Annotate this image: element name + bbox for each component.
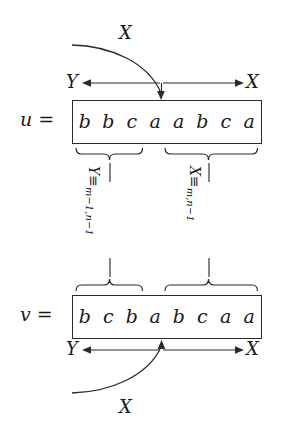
v-cell: a (144, 307, 168, 328)
u-cell: a (238, 112, 262, 133)
bottom-curved-arrow (72, 340, 165, 393)
u-cell: b (73, 112, 97, 133)
top-curve-label: X (119, 24, 132, 42)
diagram-vector-layer (0, 0, 284, 437)
v-cell: c (97, 307, 121, 328)
v-string-box: b c b a b c a a (72, 295, 262, 339)
u-split-arrows (82, 79, 244, 93)
left-congruence-symbol: Y (86, 166, 102, 175)
v-row-label: v = (20, 303, 53, 325)
v-cell: b (167, 307, 191, 328)
u-cell: b (97, 112, 121, 133)
v-left-brace (76, 279, 143, 291)
bottom-curve-arrowhead (158, 340, 166, 349)
v-cell: a (214, 307, 238, 328)
right-congruence-label: X≡m,n−1 (185, 166, 203, 222)
u-left-end-label: Y (66, 73, 78, 91)
left-congruence-label: Y≡m−1,n−1 (84, 166, 102, 236)
u-cell: c (120, 112, 144, 133)
v-cell: a (238, 307, 262, 328)
left-congruence-subscript: m−1,n−1 (84, 187, 95, 236)
u-right-end-label: X (246, 73, 259, 91)
v-left-arrowhead (82, 346, 91, 354)
v-right-end-label: X (246, 340, 259, 358)
bottom-curve-label: X (119, 398, 132, 416)
u-string-box: b b c a a b c a (72, 100, 262, 144)
u-cell: a (144, 112, 168, 133)
u-left-brace (76, 148, 143, 160)
right-congruence-subscript: m,n−1 (185, 188, 196, 222)
u-left-arrowhead (82, 79, 91, 87)
right-congruence-relation: ≡ (187, 176, 203, 188)
u-cell: b (191, 112, 215, 133)
right-congruence-symbol: X (187, 166, 203, 176)
v-right-arrowhead (235, 346, 244, 354)
top-curved-arrow (72, 45, 165, 100)
u-cell: a (167, 112, 191, 133)
string-split-congruence-diagram: u = v = b b c a a b c a b c b a b c a a … (0, 0, 284, 437)
u-right-arrowhead (235, 79, 244, 87)
v-cell: b (120, 307, 144, 328)
left-congruence-relation: ≡ (86, 175, 102, 187)
u-cell: c (214, 112, 238, 133)
u-row-label: u = (20, 108, 54, 130)
v-right-brace (165, 279, 258, 291)
v-cell: b (73, 307, 97, 328)
v-left-end-label: Y (66, 340, 78, 358)
u-right-brace (165, 148, 258, 160)
v-cell: c (191, 307, 215, 328)
